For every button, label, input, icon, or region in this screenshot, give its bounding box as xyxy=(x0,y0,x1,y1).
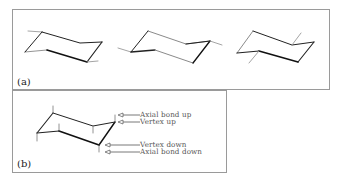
arrow-vertex-down xyxy=(105,143,140,147)
chair-1 xyxy=(25,31,102,62)
chair-2 xyxy=(118,31,222,63)
arrow-axial-bond-down xyxy=(105,150,140,154)
panel-a-label: (a) xyxy=(17,76,31,87)
annotation-axial-bond-down: Axial bond down xyxy=(140,147,202,156)
arrow-vertex-up xyxy=(118,120,140,124)
chair-3 xyxy=(237,31,314,63)
chair-labeled xyxy=(37,106,115,152)
annotation-arrows xyxy=(105,113,140,154)
arrow-axial-bond-up xyxy=(118,113,140,117)
annotation-vertex-up: Vertex up xyxy=(140,117,176,126)
panel-b-label: (b) xyxy=(17,158,31,169)
